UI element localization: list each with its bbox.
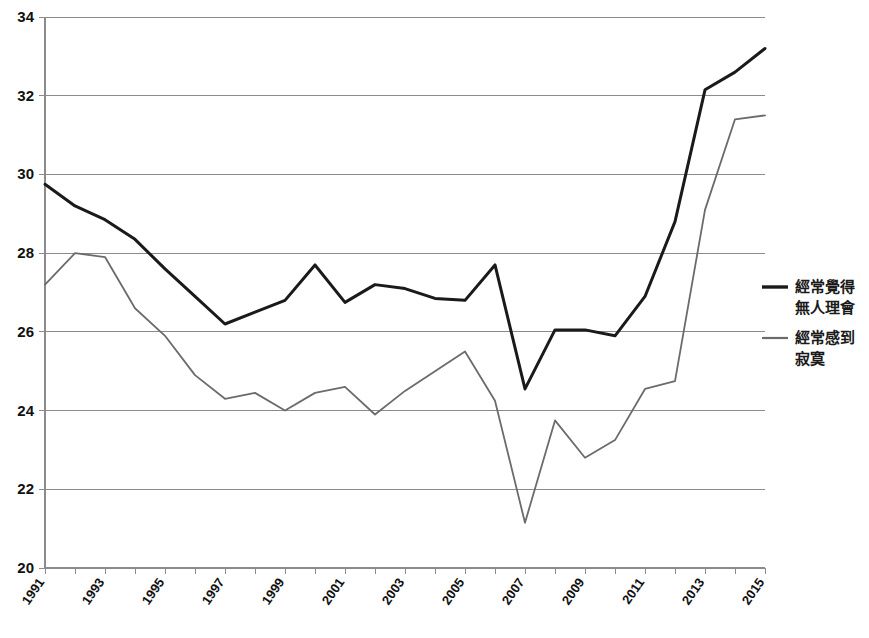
- x-tick-label-2005: 2005: [439, 575, 468, 607]
- x-tick-label-2001: 2001: [319, 575, 348, 607]
- y-tick-label-26: 26: [17, 323, 34, 340]
- line-chart: 2022242628303234 19911993199519971999200…: [0, 0, 869, 638]
- chart-canvas: 2022242628303234 19911993199519971999200…: [0, 0, 869, 638]
- legend-label-0-line1: 經常覺得: [795, 278, 855, 296]
- legend-label-1-line1: 經常感到: [795, 329, 855, 347]
- x-tick-label-1991: 1991: [19, 575, 48, 607]
- x-tick-label-2013: 2013: [679, 575, 708, 607]
- x-tick-label-2011: 2011: [619, 575, 647, 607]
- x-tick-label-2007: 2007: [499, 575, 528, 607]
- series-line-0: [45, 48, 765, 388]
- chart-legend: 經常覺得無人理會經常感到寂寞: [762, 278, 856, 368]
- legend-label-1-line2: 寂寞: [795, 350, 826, 368]
- xaxis-labels-group: 1991199319951997199920012003200520072009…: [19, 575, 768, 607]
- series-group: [45, 48, 765, 522]
- y-tick-label-30: 30: [17, 165, 34, 182]
- y-tick-label-22: 22: [17, 480, 34, 497]
- x-tick-label-2015: 2015: [739, 575, 768, 607]
- xaxis-tickmarks-group: [45, 568, 765, 574]
- x-tick-label-1995: 1995: [139, 575, 168, 607]
- x-tick-label-1997: 1997: [199, 575, 228, 607]
- legend-label-0-line2: 無人理會: [795, 299, 856, 317]
- y-tick-label-34: 34: [17, 8, 34, 25]
- axes-group: [39, 17, 765, 568]
- y-tick-label-32: 32: [17, 87, 34, 104]
- series-line-1: [45, 115, 765, 522]
- x-tick-label-1999: 1999: [259, 575, 288, 607]
- gridlines-group: [45, 17, 765, 568]
- y-tick-label-24: 24: [17, 402, 34, 419]
- x-tick-label-1993: 1993: [79, 575, 108, 607]
- x-tick-label-2009: 2009: [559, 575, 588, 607]
- yaxis-labels-group: 2022242628303234: [17, 8, 34, 576]
- y-tick-label-20: 20: [17, 559, 34, 576]
- y-tick-label-28: 28: [17, 244, 34, 261]
- x-tick-label-2003: 2003: [379, 575, 408, 607]
